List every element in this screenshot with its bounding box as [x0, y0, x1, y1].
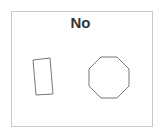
shapes-canvas — [0, 0, 161, 133]
octagon-shape — [89, 57, 129, 98]
rotated-rectangle-shape — [33, 58, 53, 95]
